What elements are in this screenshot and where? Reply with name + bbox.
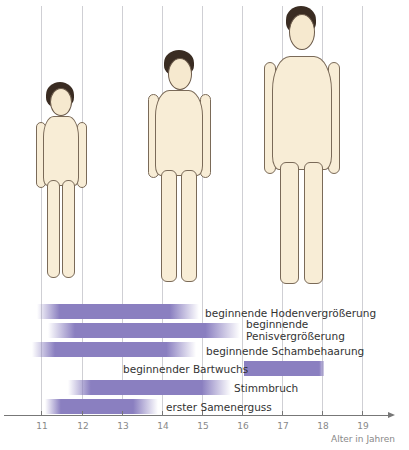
figure-leg-left <box>280 162 299 284</box>
figure-leg-left <box>47 180 60 278</box>
label-penisvergroesserung-1: beginnende <box>246 318 308 330</box>
bar-samenerguss <box>45 399 158 414</box>
tick-label: 18 <box>313 421 333 431</box>
tick-14 <box>162 411 163 416</box>
figure-leg-right <box>304 162 323 284</box>
label-stimmbruch: Stimmbruch <box>234 382 298 394</box>
bar-stimmbruch <box>68 380 231 395</box>
figure-head <box>50 88 72 116</box>
tick-15 <box>202 411 203 416</box>
figure-stage-3 <box>264 6 340 288</box>
tick-18 <box>322 411 323 416</box>
figure-head <box>289 14 315 50</box>
x-axis <box>4 415 390 416</box>
tick-11 <box>41 411 42 416</box>
label-penisvergroesserung-2: Penisvergrößerung <box>246 330 345 342</box>
tick-19 <box>362 411 363 416</box>
tick-label: 15 <box>193 421 213 431</box>
label-samenerguss: erster Samenerguss <box>166 401 272 413</box>
figure-stage-1 <box>36 82 90 282</box>
figure-leg-right <box>181 170 197 282</box>
tick-12 <box>82 411 83 416</box>
figure-torso <box>272 56 332 170</box>
bar-bartwuchs <box>244 361 324 376</box>
tick-16 <box>242 411 243 416</box>
label-bartwuchs: beginnender Bartwuchs <box>123 363 248 375</box>
tick-13 <box>122 411 123 416</box>
figure-leg-right <box>62 180 75 278</box>
tick-label: 14 <box>153 421 173 431</box>
axis-title: Alter in Jahren <box>331 434 395 444</box>
figure-leg-left <box>161 170 177 282</box>
x-axis-arrow-icon <box>388 412 395 418</box>
figure-stage-2 <box>148 50 212 286</box>
bar-penisvergroesserung <box>48 323 240 338</box>
tick-label: 16 <box>233 421 253 431</box>
bar-hodenvergroesserung <box>37 304 199 319</box>
label-schambehaarung: beginnende Schambehaarung <box>206 345 364 357</box>
figure-head <box>168 58 192 90</box>
figure-torso <box>155 90 203 176</box>
tick-label: 12 <box>73 421 93 431</box>
tick-label: 17 <box>273 421 293 431</box>
tick-label: 19 <box>353 421 373 431</box>
tick-label: 13 <box>113 421 133 431</box>
figure-torso <box>43 116 79 186</box>
tick-label: 11 <box>32 421 52 431</box>
bar-schambehaarung <box>32 342 196 357</box>
tick-17 <box>282 411 283 416</box>
